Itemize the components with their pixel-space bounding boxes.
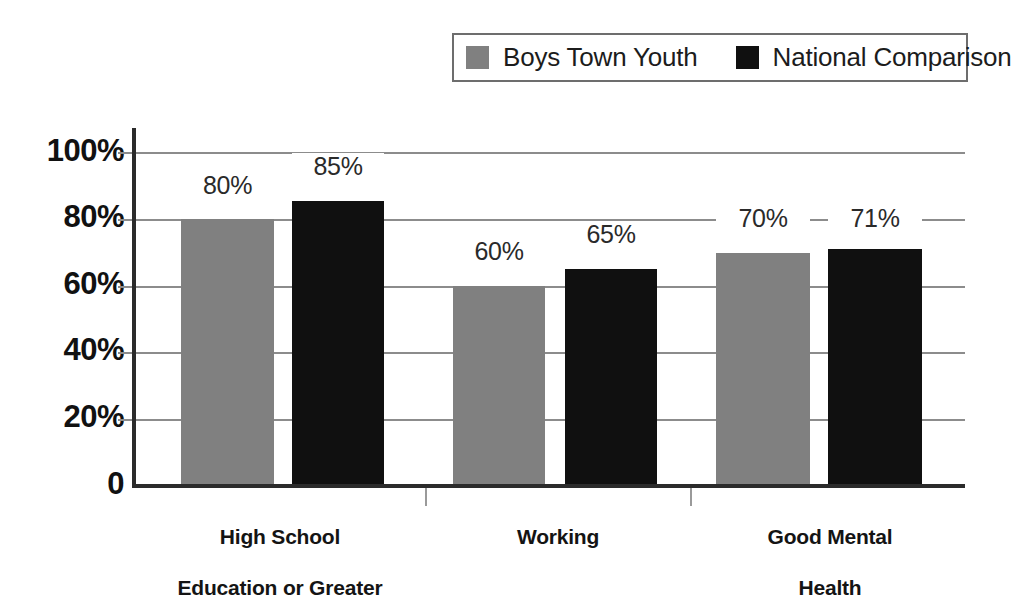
- category-label-working: Working: [430, 498, 686, 575]
- category-label-high-school-line1: High School: [140, 524, 420, 550]
- legend-entry-boys-town-youth: Boys Town Youth: [466, 35, 698, 80]
- legend-label-national-comparison: National Comparison: [773, 42, 1012, 73]
- value-label-national-comparison-good-mental-health: 71%: [828, 205, 922, 231]
- value-label-national-comparison-working: 65%: [565, 221, 657, 247]
- category-label-high-school: High School Education or Greater: [140, 498, 420, 599]
- value-label-boys-town-youth-good-mental-health: 70%: [716, 205, 810, 231]
- bar-national-comparison-high-school: [292, 201, 384, 486]
- category-label-high-school-line2: Education or Greater: [140, 575, 420, 599]
- bar-boys-town-youth-good-mental-health: [716, 253, 810, 486]
- y-tick-label-60: 60%: [0, 268, 124, 299]
- chart-legend: Boys Town Youth National Comparison: [452, 33, 968, 82]
- bar-boys-town-youth-high-school: [181, 219, 274, 486]
- bar-national-comparison-good-mental-health: [828, 249, 922, 486]
- value-label-boys-town-youth-working: 60%: [453, 238, 545, 264]
- bar-boys-town-youth-working: [453, 286, 545, 486]
- legend-entry-national-comparison: National Comparison: [736, 35, 1012, 80]
- y-tick-label-40: 40%: [0, 334, 124, 365]
- x-axis-line: [132, 484, 965, 488]
- category-label-working-line1: Working: [430, 524, 686, 550]
- category-label-good-mental-health: Good Mental Health: [700, 498, 960, 599]
- category-separator-2: [690, 488, 692, 506]
- gridline-100: [118, 152, 965, 154]
- legend-label-boys-town-youth: Boys Town Youth: [503, 42, 698, 73]
- value-label-national-comparison-high-school: 85%: [292, 153, 384, 179]
- category-label-good-mental-health-line2: Health: [700, 575, 960, 599]
- y-axis-line: [132, 128, 136, 488]
- value-label-boys-town-youth-high-school: 80%: [181, 172, 274, 198]
- black-swatch-icon: [736, 46, 759, 69]
- y-axis-labels: 100% 80% 60% 40% 20% 0: [0, 0, 124, 590]
- category-label-good-mental-health-line1: Good Mental: [700, 524, 960, 550]
- y-tick-label-20: 20%: [0, 401, 124, 432]
- y-tick-label-80: 80%: [0, 201, 124, 232]
- y-tick-label-100: 100%: [0, 135, 124, 166]
- category-separator-1: [425, 488, 427, 506]
- gray-swatch-icon: [466, 46, 489, 69]
- bar-national-comparison-working: [565, 269, 657, 486]
- y-tick-label-0: 0: [0, 468, 124, 499]
